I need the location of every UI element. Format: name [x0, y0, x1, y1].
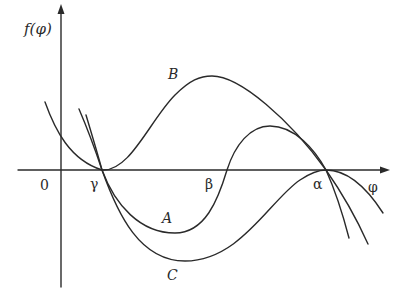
curve-a: [86, 115, 349, 238]
root-gamma-label: γ: [90, 177, 98, 191]
diagram-svg: [0, 0, 401, 302]
root-beta-label: β: [205, 177, 213, 191]
diagram-canvas: f(φ) φ 0 γ β α A B C: [0, 0, 401, 302]
curve-b-label: B: [168, 67, 178, 81]
x-axis-label: φ: [368, 180, 378, 194]
y-axis-label: f(φ): [24, 22, 52, 37]
curve-a-label: A: [162, 211, 172, 225]
origin-label: 0: [40, 178, 49, 192]
curve-c: [79, 109, 383, 261]
curve-c-label: C: [167, 268, 178, 282]
x-axis-arrow-icon: [380, 167, 390, 174]
root-alpha-label: α: [313, 177, 322, 191]
y-axis-arrow-icon: [58, 4, 65, 14]
